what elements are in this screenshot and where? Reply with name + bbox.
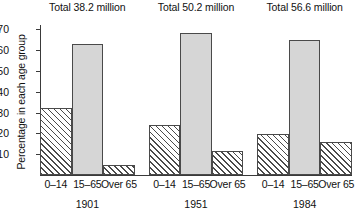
bar-chart: Total 38.2 millionTotal 50.2 millionTota… [0,0,355,217]
y-axis-tick-label: 10 [0,149,9,159]
bar-1901-15-65 [72,44,104,175]
bar-1984-15-65 [289,40,321,175]
bar-1901-over-65 [103,165,135,175]
y-axis-tick-label: 20 [0,128,9,138]
x-axis-year-label: 1984 [257,198,352,210]
plot-area: 10203040506070 [40,25,352,175]
group-total-title: Total 56.6 million [243,1,355,13]
x-axis-year-label: 1951 [149,198,244,210]
y-axis-tick-label: 30 [0,108,9,118]
group-total-title: Total 50.2 million [135,1,258,13]
x-axis-age-label: Over 65 [207,178,249,190]
bar-1951-over-65 [212,151,244,175]
y-axis-tick [36,92,41,93]
y-axis-tick [36,29,41,30]
bar-1984-0-14 [257,134,289,175]
y-axis-tick-label: 50 [0,66,9,76]
bar-1951-0-14 [149,125,181,175]
group-total-title: Total 38.2 million [26,1,149,13]
y-axis-tick-label: 40 [0,87,9,97]
x-axis-age-label: Over 65 [98,178,140,190]
y-axis-title: Percentage in each age group [15,17,27,187]
group-titles-row: Total 38.2 millionTotal 50.2 millionTota… [0,0,355,16]
x-axis-line [40,175,352,176]
x-axis-year-label: 1901 [40,198,135,210]
bar-1951-15-65 [180,33,212,175]
x-axis-age-label: Over 65 [315,178,355,190]
y-axis-tick [36,71,41,72]
y-axis-tick-label: 70 [0,24,9,34]
bar-1901-0-14 [40,108,72,175]
y-axis-tick [36,50,41,51]
y-axis-tick-label: 60 [0,45,9,55]
bar-1984-over-65 [320,142,352,175]
